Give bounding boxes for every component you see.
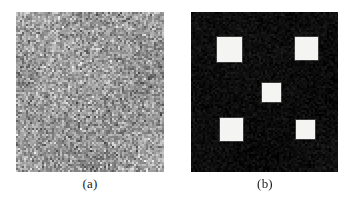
figure-container: (a) (b)	[0, 0, 353, 197]
panel-b-caption: (b)	[235, 176, 295, 192]
target-square-bottom-left	[220, 118, 243, 141]
target-square-top-left	[217, 37, 242, 62]
panel-a-caption: (a)	[60, 176, 120, 192]
panel-a-noisy-image	[16, 12, 164, 172]
target-square-center	[262, 83, 281, 102]
noise-image-canvas	[16, 12, 164, 172]
target-square-top-right	[295, 37, 318, 60]
target-square-bottom-right	[296, 120, 315, 139]
panel-b-detected-squares	[191, 12, 338, 172]
